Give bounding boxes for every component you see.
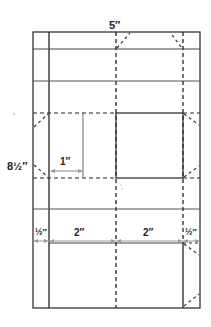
segment-label-left-half: ½″ <box>35 228 47 237</box>
square-offset-label: 1″ <box>60 157 70 167</box>
segment-label-two-left: 2″ <box>74 228 84 238</box>
template-diagram <box>0 0 211 327</box>
segment-label-right-half: ½″ <box>185 228 197 237</box>
segment-label-two-right: 2″ <box>143 228 153 238</box>
width-label: 5″ <box>109 20 120 31</box>
one-inch-arrow <box>50 169 83 173</box>
height-label: 8½″ <box>7 161 28 172</box>
center-square <box>116 113 183 178</box>
